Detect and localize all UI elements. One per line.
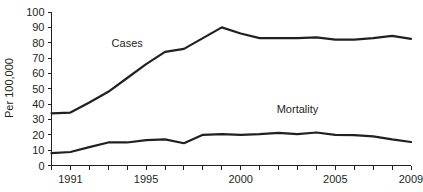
line-chart: 0102030405060708090100 19911995200020052… — [0, 0, 423, 192]
y-tick-label: 70 — [32, 52, 44, 64]
y-tick-label: 60 — [32, 67, 44, 79]
y-tick-label: 50 — [32, 83, 44, 95]
y-axis-title: Per 100,000 — [3, 58, 15, 118]
x-tick-label: 2009 — [399, 173, 423, 185]
y-tick-label: 80 — [32, 37, 44, 49]
x-tick-label: 1991 — [58, 173, 82, 185]
y-tick-label: 100 — [26, 6, 44, 18]
x-tick-label: 2005 — [323, 173, 347, 185]
x-tick-label: 1995 — [134, 173, 158, 185]
x-tick-label: 2000 — [228, 173, 252, 185]
y-tick-label: 90 — [32, 21, 44, 33]
y-tick-label: 30 — [32, 113, 44, 125]
y-tick-label: 10 — [32, 144, 44, 156]
chart-background — [0, 0, 423, 192]
y-tick-label: 0 — [38, 160, 44, 172]
y-tick-label: 40 — [32, 98, 44, 110]
series-label-cases: Cases — [112, 37, 144, 49]
y-tick-label: 20 — [32, 129, 44, 141]
chart-figure: 0102030405060708090100 19911995200020052… — [0, 0, 423, 192]
series-label-mortality: Mortality — [277, 103, 319, 115]
